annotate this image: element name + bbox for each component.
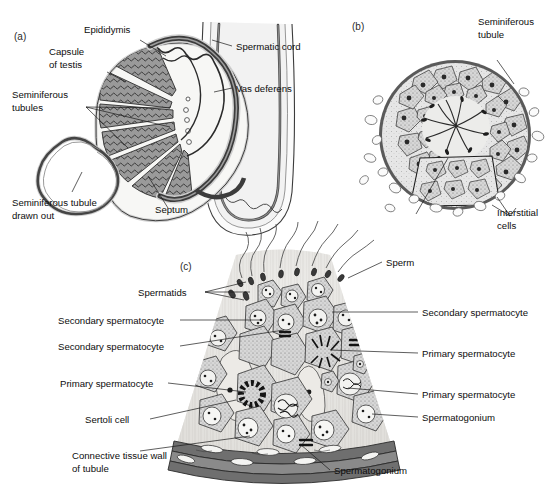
label-connective-tissue-wall-line2: of tubule xyxy=(72,463,109,474)
label-vas-deferens: Vas deferens xyxy=(236,83,292,94)
label-tubule-drawn-out-line1: Seminiferous tubule xyxy=(12,197,97,208)
label-seminiferous-tubule-line1: Seminiferous xyxy=(478,16,534,27)
panel-b-label: (b) xyxy=(352,21,364,32)
label-septum: Septum xyxy=(155,204,188,215)
label-epididymis: Epididymis xyxy=(84,24,131,35)
label-seminiferous-tubule-line2: tubule xyxy=(478,29,504,40)
label-primary-spermatocyte-right-1: Primary spermatocyte xyxy=(422,348,515,359)
label-primary-spermatocyte-left: Primary spermatocyte xyxy=(60,378,153,389)
label-capsule-line2: of testis xyxy=(49,59,82,70)
label-spermatogonium-right: Spermatogonium xyxy=(422,412,495,423)
label-secondary-spermatocyte-2: Secondary spermatocyte xyxy=(58,341,164,352)
label-connective-tissue-wall-line1: Connective tissue wall xyxy=(72,450,167,461)
panel-c-label: (c) xyxy=(180,261,192,272)
panel-a-label: (a) xyxy=(14,31,26,42)
label-seminiferous-tubules-line1: Seminiferous xyxy=(12,89,68,100)
figure-canvas: (a) xyxy=(0,0,560,503)
label-interstitial-cells-line1: Interstitial xyxy=(497,207,538,218)
label-spermatic-cord: Spermatic cord xyxy=(236,41,301,52)
label-spermatogonium-bottom: Spermatogonium xyxy=(334,465,407,476)
label-sperm: Sperm xyxy=(386,257,414,268)
label-spermatids: Spermatids xyxy=(138,287,187,298)
label-primary-spermatocyte-right-2: Primary spermatocyte xyxy=(422,389,515,400)
label-secondary-spermatocyte-right: Secondary spermatocyte xyxy=(422,307,528,318)
label-secondary-spermatocyte-1: Secondary spermatocyte xyxy=(58,315,164,326)
label-tubule-drawn-out-line2: drawn out xyxy=(12,210,54,221)
label-sertoli-cell: Sertoli cell xyxy=(85,414,129,425)
label-interstitial-cells-line2: cells xyxy=(497,220,516,231)
label-seminiferous-tubules-line2: tubules xyxy=(12,102,43,113)
label-capsule-line1: Capsule xyxy=(49,46,84,57)
